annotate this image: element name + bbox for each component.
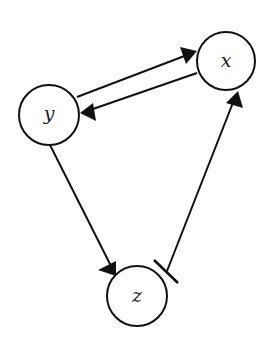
- graph-diagram: x y z: [0, 0, 270, 337]
- arrowhead-icon: [80, 103, 96, 121]
- node-y-label: y: [43, 102, 55, 124]
- node-x-label: x: [221, 49, 232, 71]
- edge-z-to-x: [154, 91, 243, 283]
- edge-y-to-z: [50, 145, 116, 276]
- arrowhead-icon: [226, 91, 243, 108]
- node-z: z: [107, 266, 167, 326]
- edge-x-to-y: [80, 73, 197, 121]
- arrowhead-icon: [180, 47, 197, 64]
- node-x: x: [197, 32, 255, 90]
- edge-y-to-x: [77, 47, 197, 97]
- arrowhead-icon: [98, 261, 116, 276]
- node-z-label: z: [131, 284, 143, 306]
- node-y: y: [19, 85, 79, 145]
